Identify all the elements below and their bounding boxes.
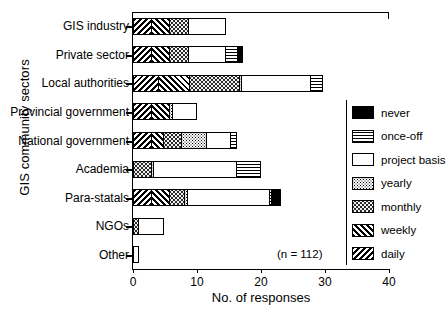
category-label-other: Other [99,249,129,261]
bar-segment-project-basis [206,132,232,149]
plot-top-border [133,12,389,13]
bar-segment-once-off [230,132,236,149]
legend-item-monthly: monthly [352,199,436,214]
legend-item-never: never [352,105,436,120]
x-axis-tick-label: 40 [369,275,409,289]
category-label-ngos: NGOs [96,220,129,232]
x-axis-tick [261,269,262,273]
category-label-national-government: National government [18,135,129,147]
bar-segment-daily [133,75,159,92]
legend-item-daily: daily [352,246,436,261]
bar-segment-weekly [151,18,170,35]
plot-right-tick [388,12,389,19]
legend-item-project-basis: project basis [352,152,436,167]
bar-segment-daily [133,103,152,120]
y-axis-title: GIS community sectors [17,18,32,238]
bar-segment-project-basis [138,218,164,235]
legend-swatch-project-basis [352,153,374,166]
bar-segment-daily [133,132,152,149]
bar-ngos [133,218,163,235]
legend-swatch-daily [352,247,374,260]
bar-gis-industry [133,18,225,35]
legend-label: yearly [381,177,412,189]
bar-segment-once-off [236,161,262,178]
legend-swatch-weekly [352,224,374,237]
bar-segment-weekly [151,46,170,63]
bar-segment-never [237,46,243,63]
x-axis-tick-label: 30 [305,275,345,289]
legend-swatch-once-off [352,130,374,143]
chart-legend: neveronce-offproject basisyearlymonthlyw… [352,105,436,270]
bar-segment-daily [133,189,152,206]
x-axis-title: No. of responses [133,290,389,305]
legend-divider [346,100,347,265]
x-axis-tick [325,269,326,273]
category-label-private-sector: Private sector [56,49,129,61]
legend-item-weekly: weekly [352,223,436,238]
category-label-para-statals: Para-statals [65,192,129,204]
bar-segment-once-off [310,75,323,92]
bar-segment-never [271,189,281,206]
category-label-gis-industry: GIS industry [63,20,129,32]
x-axis-tick-label: 10 [177,275,217,289]
bar-segment-monthly [169,189,185,206]
bar-segment-project-basis [188,46,226,63]
bar-segment-daily [133,46,152,63]
legend-label: weekly [381,224,416,236]
bar-segment-daily [133,18,152,35]
bar-segment-monthly [163,132,182,149]
bar-para-statals [133,189,280,206]
bar-local-authorities [133,75,322,92]
bar-provincial-government [133,103,196,120]
bar-segment-project-basis [172,103,198,120]
bar-academia [133,161,260,178]
bar-segment-weekly [151,189,170,206]
bar-segment-yearly [181,132,207,149]
bar-national-government [133,132,236,149]
bar-segment-weekly [158,75,190,92]
bar-private-sector [133,46,242,63]
legend-swatch-never [352,106,374,119]
bar-segment-monthly [189,75,240,92]
legend-label: project basis [381,154,446,166]
category-label-provincial-government: Provincial government [10,106,129,118]
x-axis-tick-label: 0 [113,275,153,289]
legend-item-yearly: yearly [352,176,436,191]
category-label-academia: Academia [76,163,129,175]
sample-size-annotation: (n = 112) [277,248,323,260]
bar-segment-project-basis [133,246,139,263]
bar-segment-project-basis [241,75,311,92]
bar-segment-weekly [151,103,170,120]
legend-label: never [381,107,410,119]
x-axis-tick-label: 20 [241,275,281,289]
x-axis-tick [133,269,134,273]
bar-segment-project-basis [188,18,226,35]
bar-segment-project-basis [187,189,270,206]
bar-segment-project-basis [153,161,236,178]
legend-label: monthly [381,201,421,213]
x-axis-tick [197,269,198,273]
category-label-local-authorities: Local authorities [42,77,129,89]
bar-segment-monthly [169,46,188,63]
legend-label: once-off [381,130,422,142]
bar-segment-monthly [133,161,152,178]
bar-segment-monthly [169,18,188,35]
legend-label: daily [381,248,405,260]
legend-swatch-yearly [352,177,374,190]
legend-item-once-off: once-off [352,129,436,144]
x-axis-tick [389,269,390,273]
bar-other [133,246,138,263]
legend-swatch-monthly [352,200,374,213]
